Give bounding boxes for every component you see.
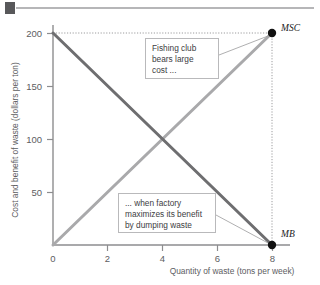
callout-factory-benefit: ... when factory maximizes its benefit b… bbox=[118, 193, 216, 233]
y-tick-label-50: 50 bbox=[31, 187, 42, 198]
callout-fishing-club-cost: Fishing club bears large cost ... bbox=[145, 38, 219, 79]
callout-bottom-leader-line bbox=[216, 215, 268, 243]
callout-bottom-line-1: ... when factory bbox=[125, 198, 210, 209]
callout-top-line-1: Fishing club bbox=[152, 43, 213, 54]
x-tick-label-6: 6 bbox=[215, 253, 220, 264]
callout-bottom-line-3: by dumping waste bbox=[125, 220, 210, 231]
figure-canvas: 50 100 150 200 0 2 4 6 8 Quantity of was… bbox=[0, 0, 320, 285]
y-tick-label-100: 100 bbox=[26, 134, 42, 145]
mb-endpoint-dot bbox=[268, 241, 276, 249]
y-tick-label-150: 150 bbox=[26, 81, 42, 92]
x-tick-label-2: 2 bbox=[105, 253, 110, 264]
mb-curve-label: MB bbox=[280, 229, 295, 239]
callout-top-line-3: cost ... bbox=[152, 65, 213, 76]
callout-bottom-line-2: maximizes its benefit bbox=[125, 209, 210, 220]
msc-curve-label: MSC bbox=[280, 23, 301, 33]
callout-top-line-2: bears large bbox=[152, 54, 213, 65]
x-tick-label-0: 0 bbox=[50, 253, 55, 264]
y-tick-label-200: 200 bbox=[26, 28, 42, 39]
x-tick-label-4: 4 bbox=[160, 253, 165, 264]
x-tick-label-8: 8 bbox=[270, 253, 275, 264]
y-axis-title: Cost and benefit of waste (dollars per t… bbox=[10, 62, 20, 218]
msc-endpoint-dot bbox=[268, 29, 276, 37]
x-axis-title: Quantity of waste (tons per week) bbox=[170, 266, 295, 276]
